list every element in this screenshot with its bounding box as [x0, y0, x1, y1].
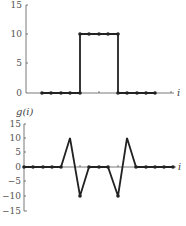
- top-ytick-label: 10: [11, 29, 23, 39]
- figure: 15 10 5 0 i g(i) 15 10 5 0: [0, 0, 186, 226]
- top-series-line: [42, 34, 155, 93]
- top-chart: 15 10 5 0 i: [11, 0, 181, 98]
- top-x-axis-label: i: [177, 87, 180, 98]
- top-series-markers: [40, 32, 157, 95]
- bottom-ytick-label: 5: [15, 147, 21, 157]
- bottom-ytick-label: 15: [10, 119, 22, 129]
- top-ytick-label: 5: [16, 58, 22, 68]
- bottom-ytick-label: −15: [2, 206, 21, 216]
- top-ytick-label: 15: [11, 0, 23, 10]
- bottom-x-axis-label: i: [178, 161, 181, 172]
- bottom-series-markers: [22, 165, 175, 198]
- bottom-chart: g(i) 15 10 5 0 −5 −10 −15 i: [2, 106, 181, 216]
- bottom-ytick-label: 0: [15, 162, 21, 172]
- bottom-ytick-label: −5: [8, 176, 22, 186]
- bottom-ytick-label: 10: [10, 133, 22, 143]
- bottom-ytick-label: −10: [2, 191, 21, 201]
- bottom-y-axis-label: g(i): [16, 106, 34, 117]
- top-ytick-label: 0: [16, 88, 22, 98]
